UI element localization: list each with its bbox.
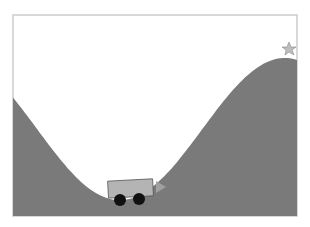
wheel-front	[133, 193, 145, 205]
car-body	[108, 179, 154, 198]
game-canvas	[0, 0, 310, 227]
wheel-rear	[114, 194, 126, 206]
